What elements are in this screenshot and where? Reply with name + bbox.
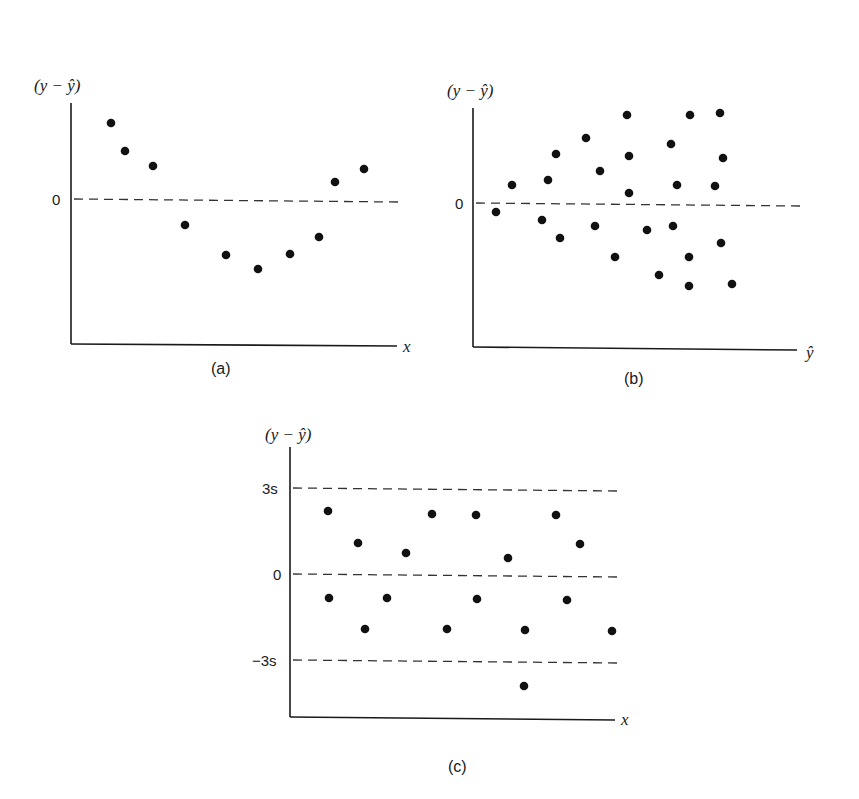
- zero-line-a: [74, 199, 398, 202]
- data-point: [544, 176, 553, 185]
- data-point: [472, 511, 481, 520]
- data-point: [428, 510, 437, 519]
- x-axis-b: [473, 347, 797, 350]
- data-point: [315, 233, 324, 242]
- data-point: [643, 226, 652, 235]
- data-point: [361, 625, 370, 634]
- data-point: [673, 181, 682, 190]
- data-point: [286, 250, 295, 259]
- x-axis-c: [290, 717, 615, 720]
- data-point: [623, 111, 632, 120]
- data-point: [492, 208, 501, 217]
- data-point: [538, 216, 547, 225]
- data-point: [655, 271, 664, 280]
- data-point: [625, 152, 634, 161]
- xlabel-c: x: [620, 710, 629, 729]
- zero-line-c: [293, 574, 618, 577]
- points-a: [107, 119, 369, 274]
- data-point: [443, 625, 452, 634]
- caption-a: (a): [211, 360, 231, 377]
- data-point: [576, 540, 585, 549]
- ylabel-b: (y − ŷ): [447, 81, 494, 100]
- data-point: [685, 253, 694, 262]
- data-point: [149, 162, 158, 171]
- data-point: [121, 147, 130, 156]
- ylabel-a: (y − ŷ): [34, 76, 81, 95]
- data-point: [360, 165, 369, 174]
- data-point: [669, 222, 678, 231]
- data-point: [325, 594, 334, 603]
- panel-c: (y − ŷ) 3s 0 −3s x (c): [252, 425, 629, 775]
- data-point: [591, 222, 600, 231]
- xlabel-b: ŷ: [804, 343, 814, 362]
- data-point: [711, 182, 720, 191]
- data-point: [181, 221, 190, 230]
- data-point: [508, 181, 517, 190]
- data-point: [383, 594, 392, 603]
- data-point: [716, 109, 725, 118]
- data-point: [107, 119, 116, 128]
- points-c: [324, 507, 617, 691]
- tick-neg-3s: −3s: [252, 652, 277, 669]
- panel-b: (y − ŷ) 0 ŷ (b): [447, 81, 814, 387]
- data-point: [717, 239, 726, 248]
- data-point: [402, 549, 411, 558]
- ylabel-c: (y − ŷ): [265, 425, 312, 444]
- zero-line-b: [476, 203, 800, 206]
- data-point: [504, 554, 513, 563]
- points-b: [492, 109, 737, 291]
- data-point: [582, 134, 591, 143]
- caption-c: (c): [448, 758, 467, 775]
- data-point: [331, 178, 340, 187]
- residual-plots-figure: (y − ŷ) 0 x (a) (y − ŷ) 0 ŷ (b) (y − ŷ) …: [0, 0, 859, 799]
- data-point: [222, 251, 231, 260]
- tick-3s: 3s: [262, 480, 278, 497]
- data-point: [254, 265, 263, 274]
- lower-3s-line: [293, 660, 618, 663]
- data-point: [608, 627, 617, 636]
- data-point: [354, 539, 363, 548]
- data-point: [685, 282, 694, 291]
- data-point: [686, 111, 695, 120]
- tick-zero-a: 0: [52, 191, 60, 208]
- data-point: [728, 280, 737, 289]
- data-point: [552, 150, 561, 159]
- data-point: [611, 253, 620, 262]
- data-point: [667, 140, 676, 149]
- data-point: [473, 595, 482, 604]
- data-point: [625, 189, 634, 198]
- data-point: [324, 507, 333, 516]
- panel-a: (y − ŷ) 0 x (a): [34, 76, 411, 377]
- xlabel-a: x: [402, 337, 411, 356]
- tick-zero-c: 0: [273, 566, 281, 583]
- data-point: [596, 167, 605, 176]
- data-point: [556, 234, 565, 243]
- data-point: [552, 511, 561, 520]
- x-axis-a: [71, 344, 397, 346]
- data-point: [520, 682, 529, 691]
- caption-b: (b): [624, 370, 644, 387]
- data-point: [521, 626, 530, 635]
- data-point: [719, 154, 728, 163]
- data-point: [563, 596, 572, 605]
- upper-3s-line: [293, 488, 618, 491]
- tick-zero-b: 0: [455, 195, 463, 212]
